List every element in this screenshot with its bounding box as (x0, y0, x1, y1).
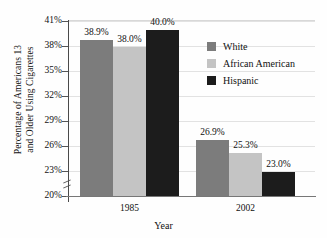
bar (146, 30, 179, 197)
bar-value-label: 23.0% (258, 159, 299, 169)
x-axis-tick-label: 2002 (216, 203, 276, 213)
y-axis-tick (62, 46, 68, 47)
y-axis-tick (62, 21, 68, 22)
legend-swatch-icon (207, 59, 216, 68)
bar-value-label: 25.3% (225, 140, 266, 150)
legend-label: White (223, 41, 247, 52)
bar-value-label: 38.0% (109, 34, 150, 44)
bar-value-label: 26.9% (192, 127, 233, 137)
x-axis-tick-label: 1985 (100, 203, 160, 213)
y-axis-tick (62, 146, 68, 147)
legend-label: Hispanic (223, 75, 259, 86)
y-axis-tick-label: 26% (28, 140, 62, 150)
y-axis-tick-label: 29% (28, 115, 62, 125)
bar-value-label: 40.0% (142, 17, 183, 27)
y-axis-line (68, 20, 69, 202)
bar (80, 40, 113, 198)
gridline (68, 21, 315, 22)
y-axis-tick-label: 41% (28, 15, 62, 25)
bar-chart: Percentage of Americans 13 and Older Usi… (0, 0, 327, 238)
y-axis-tick-label: 38% (28, 40, 62, 50)
axis-break-icon (63, 181, 72, 192)
x-axis-title: Year (0, 220, 327, 231)
bar (262, 172, 295, 197)
legend-swatch-icon (207, 76, 216, 85)
legend-item: White (207, 39, 295, 54)
y-axis-tick (62, 71, 68, 72)
y-axis-tick-label: 35% (28, 65, 62, 75)
legend-item: African American (207, 56, 295, 71)
y-axis-tick (62, 171, 68, 172)
y-axis-tick-label: 23% (28, 165, 62, 175)
x-axis-line (66, 196, 316, 197)
y-axis-tick-label: 32% (28, 90, 62, 100)
legend-item: Hispanic (207, 73, 295, 88)
bar (113, 47, 146, 197)
y-axis-tick-label: 20% (28, 190, 62, 200)
legend: WhiteAfrican AmericanHispanic (207, 39, 295, 90)
y-axis-tick (62, 96, 68, 97)
y-axis-tick (62, 121, 68, 122)
legend-swatch-icon (207, 42, 216, 51)
legend-label: African American (223, 58, 295, 69)
